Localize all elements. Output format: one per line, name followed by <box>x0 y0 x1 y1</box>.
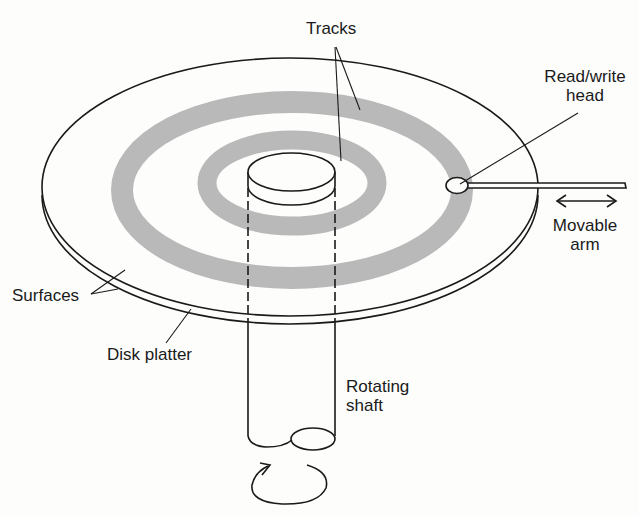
read-write-head-label-line2: head <box>530 86 639 105</box>
double-arrow-icon <box>557 195 616 207</box>
platter-leader <box>166 309 191 343</box>
rotating-shaft-label-line2: shaft <box>346 396 409 415</box>
disk-platter-label: Disk platter <box>107 345 192 364</box>
rotating-shaft-label-line1: Rotating <box>346 377 409 396</box>
tracks-label: Tracks <box>306 19 356 38</box>
read-write-head-label: Read/write head <box>530 67 639 105</box>
read-write-head <box>446 178 468 194</box>
movable-arm-label: Movable arm <box>540 216 630 254</box>
surfaces-label: Surfaces <box>12 286 79 305</box>
movable-arm-label-line2: arm <box>540 235 630 254</box>
movable-arm-label-line1: Movable <box>540 216 630 235</box>
read-write-head-label-line1: Read/write <box>530 67 639 86</box>
rotating-shaft-label: Rotating shaft <box>346 377 409 415</box>
movable-arm <box>468 183 626 188</box>
rotation-arrow-icon <box>252 463 327 504</box>
